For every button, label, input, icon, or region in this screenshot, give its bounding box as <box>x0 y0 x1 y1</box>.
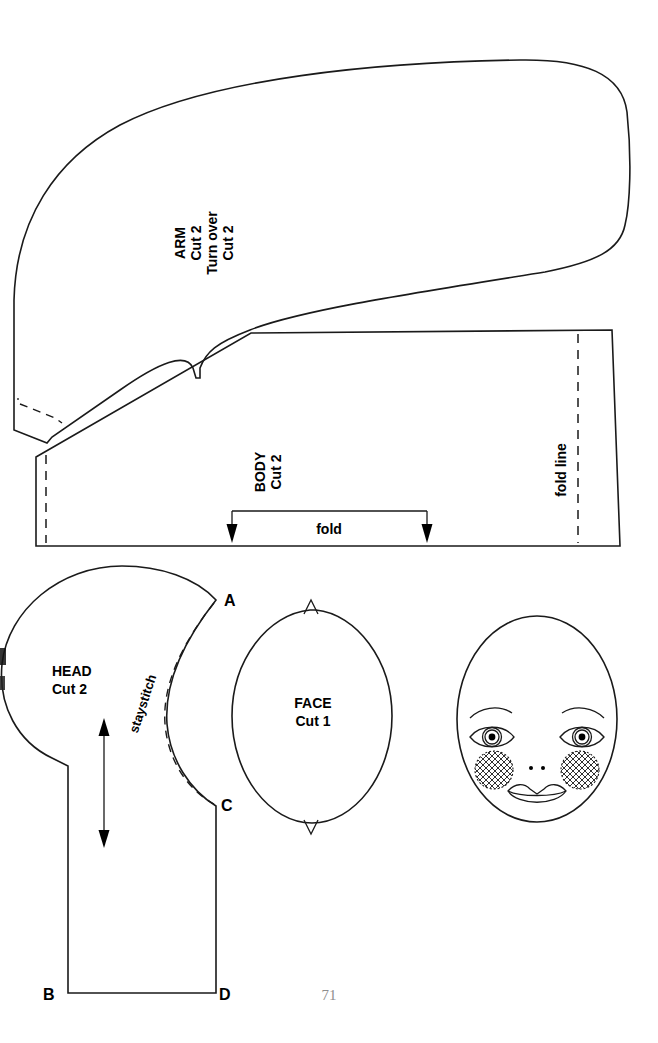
arm-label-turnover: Turn over <box>204 211 220 275</box>
pattern-piece-head: HEAD Cut 2 staystitch A B C D <box>0 566 236 1003</box>
arm-hem-stitch-line <box>20 404 62 423</box>
body-label-cut: Cut 2 <box>268 454 284 489</box>
head-point-a: A <box>224 592 236 609</box>
fold-marker: fold <box>227 511 433 543</box>
face-label-cut: Cut 1 <box>296 713 331 729</box>
pattern-sheet: ARM Cut 2 Turn over Cut 2 BODY Cut 2 fol… <box>0 0 658 1043</box>
eye-left-icon <box>470 727 514 747</box>
body-label-name: BODY <box>252 451 268 492</box>
face-placement-diagram <box>457 616 617 822</box>
arm-label-group: ARM Cut 2 Turn over Cut 2 <box>172 211 236 275</box>
pattern-piece-arm: ARM Cut 2 Turn over Cut 2 <box>14 60 630 443</box>
arm-label-name: ARM <box>172 227 188 259</box>
body-fold-line-label-group: fold line <box>553 443 569 497</box>
pattern-piece-body: BODY Cut 2 fold line fold <box>36 330 620 546</box>
face-label-name: FACE <box>294 695 331 711</box>
arm-label-cut1: Cut 2 <box>188 225 204 260</box>
cheek-right-icon <box>561 751 599 789</box>
mouth-icon <box>508 785 566 803</box>
fold-line-label: fold line <box>553 443 569 497</box>
head-point-b: B <box>43 986 55 1003</box>
eyebrow-left-icon <box>470 708 512 718</box>
nostrils-icon <box>529 766 545 770</box>
arm-label-cut2: Cut 2 <box>220 225 236 260</box>
page-number: 71 <box>322 987 337 1003</box>
head-point-d: D <box>219 986 231 1003</box>
head-label-name: HEAD <box>52 663 92 679</box>
eyebrow-right-icon <box>562 708 604 718</box>
fold-label: fold <box>316 521 342 537</box>
face-notch-top <box>304 600 318 614</box>
eye-right-icon <box>560 727 604 747</box>
head-staystitch-line <box>165 603 214 804</box>
head-point-c: C <box>221 797 233 814</box>
head-grainline-arrow <box>99 718 110 848</box>
cheek-left-icon <box>475 751 513 789</box>
pattern-piece-face: FACE Cut 1 <box>232 600 392 834</box>
staystitch-label: staystitch <box>126 672 159 734</box>
body-label-group: BODY Cut 2 <box>252 451 284 492</box>
head-label-cut: Cut 2 <box>52 681 87 697</box>
staystitch-label-group: staystitch <box>126 672 159 734</box>
